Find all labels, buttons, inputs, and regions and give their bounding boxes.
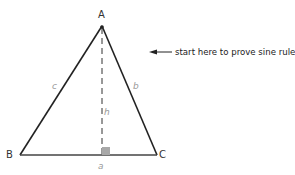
vertex-label-b: B [6, 149, 13, 160]
side-b-line [102, 26, 157, 155]
side-c-line [20, 26, 102, 155]
left-arrow-icon [149, 50, 172, 55]
side-label-b: b [133, 81, 139, 91]
side-label-c: c [52, 81, 57, 91]
triangle-diagram: A B C c b h a start here to prove sine r… [0, 0, 295, 175]
annotation-text: start here to prove sine rule [175, 47, 295, 57]
vertex-a-dot [100, 25, 104, 29]
altitude-label-h: h [104, 107, 110, 117]
vertex-label-c: C [159, 149, 166, 160]
vertex-label-a: A [98, 9, 105, 20]
right-angle-marker [102, 147, 110, 155]
side-label-a: a [98, 161, 104, 171]
